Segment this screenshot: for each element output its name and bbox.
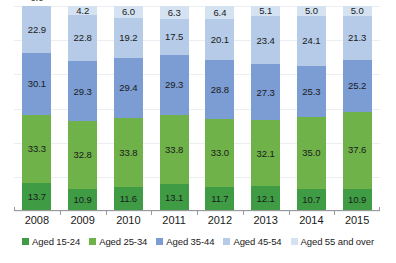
bar-segment[interactable]: 13.1 — [160, 184, 189, 211]
bar-series-container: 0.022.930.133.313.74.222.829.332.810.96.… — [14, 6, 380, 211]
bar-segment-label: 33.3 — [28, 144, 46, 154]
bar-segment-label: 6.0 — [122, 7, 135, 17]
bar-column[interactable]: 4.222.829.332.810.9 — [60, 6, 106, 211]
bar-segment[interactable]: 37.6 — [343, 112, 372, 189]
bar-segment[interactable]: 29.3 — [160, 55, 189, 115]
bar-column[interactable]: 6.420.128.833.011.7 — [197, 6, 243, 211]
bar-segment-label: 25.2 — [348, 81, 366, 91]
bar-segment-label: 29.3 — [165, 80, 183, 90]
bar-segment[interactable]: 22.9 — [22, 6, 51, 53]
x-axis-label: 2009 — [60, 214, 106, 226]
bar-segment-label: 0.0 — [30, 0, 43, 3]
bar-segment[interactable]: 17.5 — [160, 19, 189, 55]
bar-segment[interactable]: 27.3 — [251, 64, 280, 120]
bar-column[interactable]: 0.022.930.133.313.7 — [14, 6, 60, 211]
bar-column[interactable]: 5.021.325.237.610.9 — [334, 6, 380, 211]
bar-segment-label: 21.3 — [348, 33, 366, 43]
bar-segment[interactable]: 6.4 — [205, 6, 234, 19]
bar-segment[interactable]: 33.0 — [205, 119, 234, 187]
x-axis-left-cap — [14, 207, 15, 211]
bar-segment-label: 35.0 — [302, 148, 320, 158]
bar-segment-label: 5.0 — [351, 6, 364, 16]
stacked-bar-chart: 0.022.930.133.313.74.222.829.332.810.96.… — [0, 0, 396, 263]
bar-segment[interactable]: 33.8 — [114, 118, 143, 187]
legend-label: Aged 25-34 — [99, 236, 147, 247]
bar-segment[interactable]: 6.3 — [160, 6, 189, 19]
bar-segment-label: 32.1 — [257, 149, 275, 159]
stacked-bar: 6.019.229.433.811.6 — [114, 6, 143, 211]
chart-legend: Aged 15-24Aged 25-34Aged 35-44Aged 45-54… — [0, 236, 396, 247]
bar-segment[interactable]: 21.3 — [343, 16, 372, 60]
x-axis-label: 2011 — [151, 214, 197, 226]
legend-item[interactable]: Aged 35-44 — [156, 236, 214, 247]
bar-segment-label: 11.7 — [211, 194, 228, 204]
x-axis-label: 2012 — [197, 214, 243, 226]
bar-column[interactable]: 5.123.427.332.112.1 — [243, 6, 289, 211]
stacked-bar: 5.021.325.237.610.9 — [343, 6, 372, 211]
bar-segment-label: 25.3 — [302, 87, 320, 97]
bar-segment-label: 23.4 — [257, 36, 275, 46]
bar-segment[interactable]: 33.8 — [160, 115, 189, 184]
bar-segment-label: 10.7 — [302, 195, 320, 205]
bar-segment[interactable]: 32.1 — [251, 120, 280, 186]
bar-segment[interactable]: 11.7 — [205, 187, 234, 211]
bar-segment[interactable]: 30.1 — [22, 53, 51, 115]
bar-segment[interactable]: 28.8 — [205, 60, 234, 119]
bar-column[interactable]: 6.317.529.333.813.1 — [151, 6, 197, 211]
bar-segment-label: 5.0 — [305, 6, 318, 16]
bar-segment[interactable]: 32.8 — [68, 121, 97, 188]
bar-segment[interactable]: 10.9 — [68, 189, 97, 211]
bar-segment-label: 24.1 — [302, 36, 320, 46]
bar-segment[interactable]: 24.1 — [297, 16, 326, 65]
bar-segment[interactable]: 5.0 — [343, 6, 372, 16]
bar-segment-label: 6.4 — [213, 8, 226, 18]
bar-segment[interactable]: 33.3 — [22, 115, 51, 183]
bar-segment-label: 10.9 — [74, 195, 92, 205]
bar-segment-label: 22.9 — [28, 25, 46, 35]
x-axis-label: 2008 — [14, 214, 60, 226]
bar-segment[interactable]: 5.1 — [251, 6, 280, 16]
bar-segment-label: 6.3 — [168, 8, 181, 18]
stacked-bar: 5.123.427.332.112.1 — [251, 6, 280, 211]
stacked-bar: 4.222.829.332.810.9 — [68, 6, 97, 211]
bar-segment[interactable]: 10.7 — [297, 189, 326, 211]
legend-swatch-icon — [22, 238, 29, 245]
bar-segment[interactable]: 22.8 — [68, 15, 97, 62]
bar-segment[interactable]: 25.2 — [343, 60, 372, 112]
legend-swatch-icon — [89, 238, 96, 245]
bar-segment-label: 19.2 — [119, 33, 137, 43]
bar-segment[interactable]: 35.0 — [297, 117, 326, 189]
bar-column[interactable]: 6.019.229.433.811.6 — [106, 6, 152, 211]
legend-label: Aged 15-24 — [32, 236, 80, 247]
bar-segment-label: 10.9 — [348, 195, 366, 205]
legend-item[interactable]: Aged 55 and over — [291, 236, 374, 247]
bar-segment-label: 33.8 — [119, 148, 137, 158]
bar-segment[interactable]: 25.3 — [297, 66, 326, 118]
legend-swatch-icon — [223, 238, 230, 245]
bar-segment-label: 27.3 — [257, 88, 275, 98]
bar-segment[interactable]: 13.7 — [22, 183, 51, 211]
bar-segment-label: 37.6 — [348, 145, 366, 155]
bar-segment-label: 13.1 — [165, 193, 183, 203]
bar-segment[interactable]: 12.1 — [251, 186, 280, 211]
bar-column[interactable]: 5.024.125.335.010.7 — [289, 6, 335, 211]
legend-item[interactable]: Aged 45-54 — [223, 236, 281, 247]
bar-segment[interactable]: 20.1 — [205, 19, 234, 60]
bar-segment[interactable]: 23.4 — [251, 16, 280, 64]
stacked-bar: 6.420.128.833.011.7 — [205, 6, 234, 211]
bar-segment[interactable]: 10.9 — [343, 189, 372, 211]
legend-item[interactable]: Aged 15-24 — [22, 236, 80, 247]
legend-swatch-icon — [156, 238, 163, 245]
legend-item[interactable]: Aged 25-34 — [89, 236, 147, 247]
bar-segment-label: 30.1 — [28, 79, 46, 89]
bar-segment[interactable]: 29.3 — [68, 61, 97, 121]
bar-segment-label: 5.1 — [259, 6, 272, 16]
bar-segment[interactable]: 11.6 — [114, 187, 143, 211]
bar-segment[interactable]: 5.0 — [297, 6, 326, 16]
bar-segment[interactable]: 29.4 — [114, 58, 143, 118]
bar-segment[interactable]: 6.0 — [114, 6, 143, 18]
bar-segment[interactable]: 4.2 — [68, 6, 97, 15]
bar-segment[interactable]: 19.2 — [114, 18, 143, 57]
bar-segment-label: 28.8 — [211, 85, 229, 95]
bar-segment-label: 20.1 — [211, 35, 229, 45]
